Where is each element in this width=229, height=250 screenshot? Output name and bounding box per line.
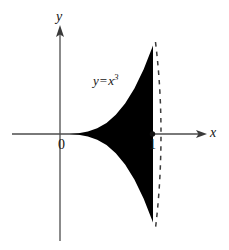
math-figure: y x 0 1 y=x3 (0, 0, 229, 250)
equation-exponent: 3 (114, 72, 119, 82)
origin-label: 0 (58, 138, 65, 152)
tick-one-dot (150, 131, 155, 136)
y-axis-label: y (56, 10, 62, 24)
tick-one-label: 1 (149, 138, 156, 152)
equation-operator: = (99, 73, 108, 88)
dashed-vertical-line (156, 42, 162, 228)
equation-lhs: y (93, 73, 99, 88)
x-axis-label: x (210, 126, 216, 140)
curve-equation-label: y=x3 (93, 73, 118, 87)
figure-canvas (0, 0, 229, 250)
